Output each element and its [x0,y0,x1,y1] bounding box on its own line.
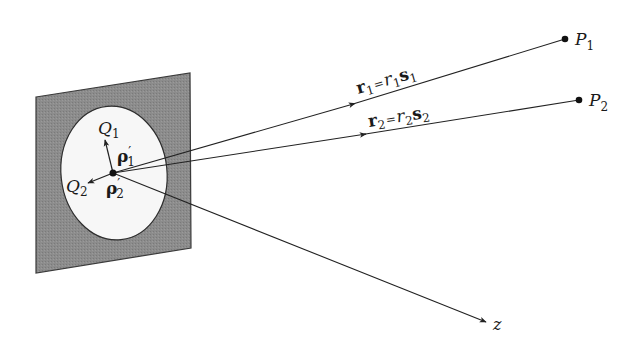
point-P2 [576,97,583,104]
point-P1 [562,36,569,43]
z-axis-label: z [492,315,502,334]
label-r1-equation: r1=r1s1 [354,62,420,101]
diffraction-geometry-diagram: z Q1 ρ′1 Q2 ρ′2 r1=r1s1 r2=r2s2 P1 P2 [0,0,631,353]
origin-point [110,170,117,177]
label-P2: P2 [588,90,608,114]
label-P1: P1 [574,29,594,53]
